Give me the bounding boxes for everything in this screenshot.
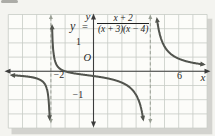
x-tick-label-neg2: −2 xyxy=(54,70,65,80)
y-tick-label-neg1: −1 xyxy=(73,90,84,100)
equation-numerator: x + 2 xyxy=(97,13,149,23)
scan-artifact xyxy=(1,0,18,3)
equation-lhs: y xyxy=(70,20,75,32)
x-tick-label-6: 6 xyxy=(177,71,182,81)
equation-equals: = xyxy=(82,22,88,33)
y-tick-label-1: 1 xyxy=(73,37,81,47)
equation-denominator: (x + 3)(x − 4) xyxy=(97,23,149,35)
figure: y = x + 2 (x + 3)(x − 4) y x O 1 −1 −2 6 xyxy=(0,0,215,136)
equation-fraction: x + 2 (x + 3)(x − 4) xyxy=(97,13,149,35)
x-axis-label: x xyxy=(201,72,206,83)
origin-label: O xyxy=(84,53,92,64)
y-axis-label: y xyxy=(86,11,91,22)
